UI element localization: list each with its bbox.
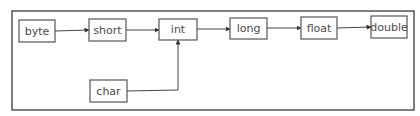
- edge-char-int: [127, 40, 178, 91]
- node-long: long: [230, 18, 267, 39]
- node-char-label: char: [96, 85, 121, 98]
- edge-byte-short: [55, 30, 89, 31]
- node-short-label: short: [93, 24, 122, 37]
- diagram-canvas: byte short int long float double char: [0, 0, 420, 116]
- node-double-label: double: [370, 21, 408, 34]
- node-int: int: [159, 19, 197, 40]
- node-byte-label: byte: [25, 25, 50, 38]
- node-int-label: int: [171, 23, 186, 36]
- node-float-label: float: [307, 22, 332, 35]
- node-float: float: [301, 17, 337, 39]
- diagram-frame: [12, 11, 414, 110]
- edge-float-double: [337, 27, 371, 28]
- node-double: double: [370, 16, 408, 38]
- node-short: short: [89, 19, 126, 41]
- node-byte: byte: [19, 20, 55, 42]
- node-long-label: long: [237, 22, 261, 35]
- node-char: char: [90, 80, 127, 102]
